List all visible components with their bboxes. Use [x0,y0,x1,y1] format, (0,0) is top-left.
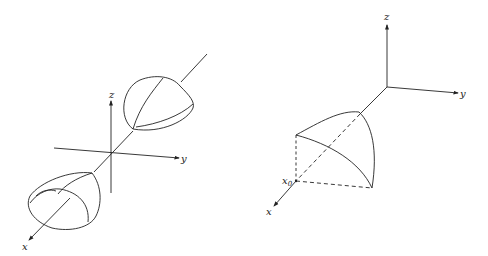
left-y-axis [54,148,179,158]
left-z-label: z [108,89,115,100]
surface-top-edge [296,112,359,135]
surface-right-edge [359,112,374,188]
right-x-axis-hidden [296,114,360,181]
left-x-axis-lower [29,198,70,240]
projection-base [296,181,372,188]
right-x-label: x [266,206,272,217]
diagram-canvas: z y x z y x x0 [0,0,488,256]
lower-sheet-outline [28,173,100,230]
right-figure [274,25,458,206]
x0-label: x0 [282,175,293,188]
upper-sheet-parallel [136,104,193,127]
upper-sheet-meridian [133,78,163,129]
left-x-axis-upper [181,54,207,82]
right-y-label: y [459,88,466,99]
x0-point [295,180,297,182]
left-figure [28,54,207,240]
x0-label-subscript: 0 [288,180,293,188]
right-y-axis [387,87,458,93]
left-y-label: y [180,153,187,164]
left-x-label: x [22,241,28,252]
right-x-axis-upper [360,87,387,114]
right-z-label: z [383,11,390,22]
lower-sheet-rim [36,190,56,196]
surface-front-edge [296,135,372,188]
